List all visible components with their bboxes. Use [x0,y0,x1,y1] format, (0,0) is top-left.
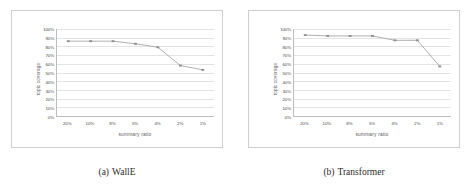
data-point-marker [438,65,441,67]
subfigure-caption-a: (a)WallE [98,167,135,177]
y-tick-label: 40% [46,79,55,84]
x-axis-tick-labels: 20%10%8%5%4%2%1% [56,121,214,131]
x-tick-label: 20% [63,121,72,126]
y-tick-label: 80% [46,44,55,49]
y-tick-label: 30% [283,88,292,93]
x-tick-label: 1% [437,121,443,126]
data-point-marker [394,39,397,41]
caption-text: Transformer [337,167,384,177]
series-line [305,35,440,66]
y-tick-label: 100% [280,27,291,32]
y-tick-label: 80% [283,44,292,49]
y-tick-label: 20% [283,97,292,102]
series-line-chart [57,29,214,116]
subfigure-caption-b: (b)Transformer [323,167,384,177]
x-tick-label: 2% [414,121,420,126]
y-tick-label: 70% [283,53,292,58]
data-point-marker [326,35,329,37]
data-point-marker [201,69,204,71]
y-axis-tick-labels: 100%90%80%70%60%50%40%30%20%10%0% [28,29,54,117]
data-point-marker [89,40,92,42]
data-point-marker [67,40,70,42]
y-tick-label: 50% [46,71,55,76]
y-tick-label: 0% [285,115,291,120]
x-tick-label: 4% [154,121,160,126]
x-tick-label: 8% [109,121,115,126]
x-tick-label: 5% [369,121,375,126]
data-point-marker [112,40,115,42]
x-axis-title: summary ratio [293,132,451,137]
data-point-marker [134,43,137,45]
y-tick-label: 50% [283,71,292,76]
x-tick-label: 10% [323,121,332,126]
y-axis-tick-labels: 100%90%80%70%60%50%40%30%20%10%0% [265,29,291,117]
y-tick-label: 10% [46,106,55,111]
data-point-marker [349,35,352,37]
y-tick-label: 60% [46,62,55,67]
y-tick-label: 40% [283,79,292,84]
y-tick-label: 70% [46,53,55,58]
x-tick-label: 2% [177,121,183,126]
y-tick-label: 20% [46,97,55,102]
x-tick-label: 4% [391,121,397,126]
y-tick-label: 90% [46,35,55,40]
y-tick-label: 0% [48,115,54,120]
data-point-marker [179,65,182,67]
caption-tag: (a) [98,167,109,177]
data-point-marker [371,35,374,37]
data-point-marker [157,46,160,48]
x-axis-title: summary ratio [56,132,214,137]
x-tick-label: 20% [300,121,309,126]
x-tick-label: 5% [132,121,138,126]
subfigure-b: topic coverage 100%90%80%70%60%50%40%30%… [246,10,462,177]
x-axis-tick-labels: 20%10%8%5%4%2%1% [293,121,451,131]
y-tick-label: 60% [283,62,292,67]
subfigure-a: topic coverage 100%90%80%70%60%50%40%30%… [9,10,225,177]
y-tick-label: 100% [43,27,54,32]
y-tick-label: 30% [46,88,55,93]
x-tick-label: 1% [200,121,206,126]
chart-panel-walle: topic coverage 100%90%80%70%60%50%40%30%… [11,10,223,148]
series-line-chart [294,29,451,116]
y-tick-label: 90% [283,35,292,40]
figure-row: topic coverage 100%90%80%70%60%50%40%30%… [0,0,471,188]
data-point-marker [304,34,307,36]
x-tick-label: 8% [346,121,352,126]
y-tick-label: 10% [283,106,292,111]
series-line [68,41,203,70]
x-tick-label: 10% [86,121,95,126]
caption-text: WallE [112,167,136,177]
data-point-marker [416,39,419,41]
chart-panel-transformer: topic coverage 100%90%80%70%60%50%40%30%… [248,10,460,148]
plot-area [293,29,451,117]
caption-tag: (b) [323,167,334,177]
plot-area [56,29,214,117]
